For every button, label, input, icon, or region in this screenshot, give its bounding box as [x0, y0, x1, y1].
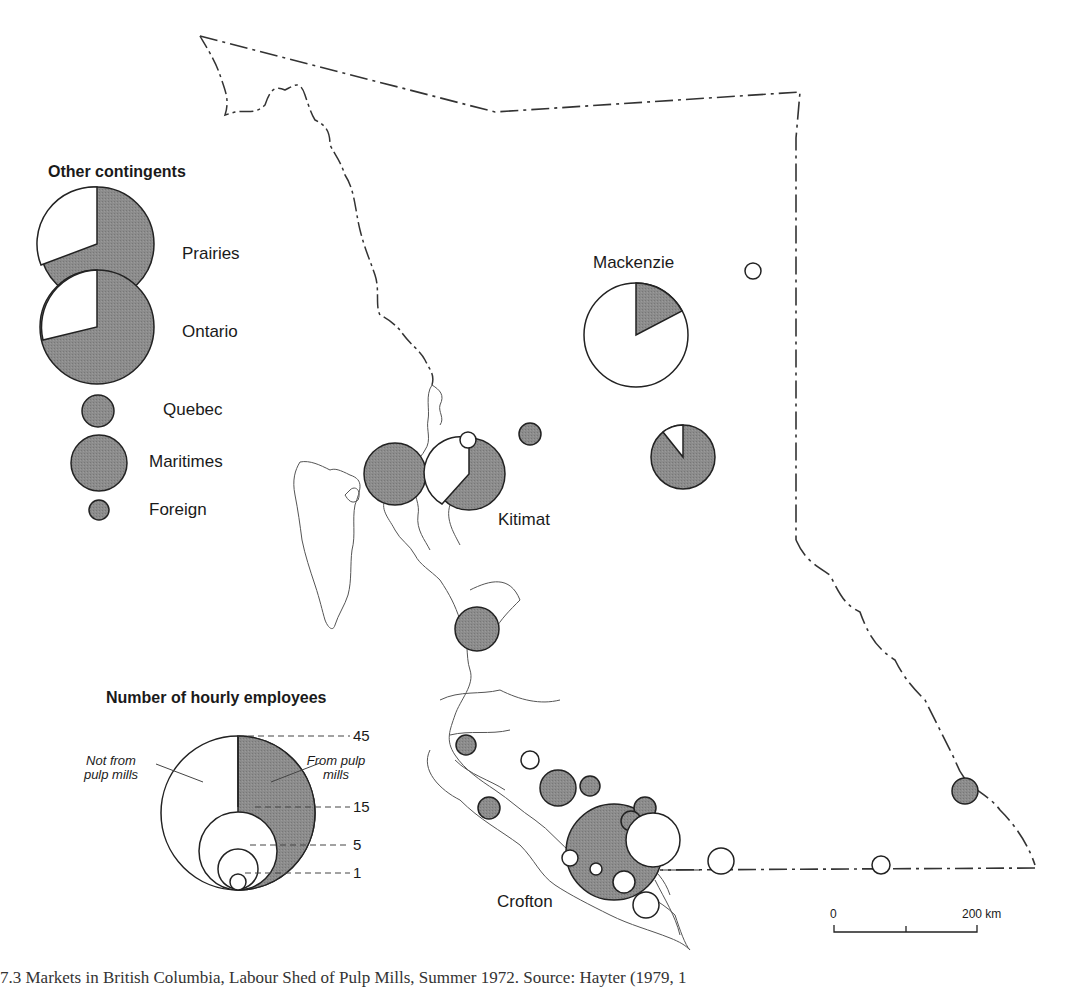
symbol-gold-river — [478, 797, 500, 819]
scale-label-start: 0 — [830, 907, 837, 921]
legend-from-pulp-label: From pulp mills — [300, 754, 372, 782]
province-boundary — [200, 36, 1035, 870]
symbol-port-alice — [456, 735, 476, 755]
nelson-circle — [952, 778, 978, 804]
legend-tick-1: 1 — [353, 864, 361, 881]
map-symbols — [364, 263, 978, 918]
legend-not-from-pulp-label: Not from pulp mills — [72, 754, 150, 782]
legend-label-quebec: Quebec — [163, 400, 223, 420]
legend-contingents-title: Other contingents — [48, 163, 186, 181]
ocean-falls-circle — [455, 607, 499, 651]
symbol-vancouver-white — [626, 813, 680, 867]
symbol-port-hardy — [521, 751, 539, 769]
symbol-campbell-river — [540, 770, 576, 806]
prince-george-pie — [651, 425, 715, 489]
symbol-crofton-west — [562, 850, 578, 866]
symbol-northeast-small — [745, 263, 761, 279]
legend-label-maritimes: Maritimes — [149, 452, 223, 472]
legend-maritimes-circle — [71, 435, 127, 491]
legend-quebec-circle — [82, 395, 114, 427]
place-label-crofton: Crofton — [497, 892, 553, 912]
scale-label-end: 200 km — [962, 907, 1001, 921]
legend-size-title: Number of hourly employees — [106, 689, 327, 707]
legend-label-foreign: Foreign — [149, 500, 207, 520]
mackenzie-pie — [584, 283, 688, 387]
legend-tick-5: 5 — [353, 836, 361, 853]
legend-foreign-circle — [89, 500, 109, 520]
legend-label-prairies: Prairies — [182, 244, 240, 264]
symbol-kitimat-small — [460, 432, 476, 448]
legend-label-ontario: Ontario — [182, 322, 238, 342]
legend-contingents-symbols — [37, 187, 154, 520]
legend-tick-45: 45 — [353, 727, 370, 744]
symbol-powell-river — [580, 776, 600, 796]
legend-ontario-pie — [40, 270, 154, 384]
symbol-terrace-circle — [519, 423, 541, 445]
figure-caption: 7.3 Markets in British Columbia, Labour … — [0, 968, 687, 988]
scale-bar — [834, 925, 977, 932]
place-label-mackenzie: Mackenzie — [593, 253, 674, 273]
symbol-castlegar-white — [872, 856, 890, 874]
symbol-kamloops-white — [708, 848, 734, 874]
symbol-crofton-inner-small — [590, 863, 602, 875]
symbol-crofton-south — [633, 892, 659, 918]
legend-size-symbols — [161, 736, 315, 890]
legend-tick-15: 15 — [353, 798, 370, 815]
prince-rupert-circle — [364, 443, 426, 505]
symbol-crofton-inner-mid — [613, 871, 635, 893]
place-label-kitimat: Kitimat — [498, 510, 550, 530]
